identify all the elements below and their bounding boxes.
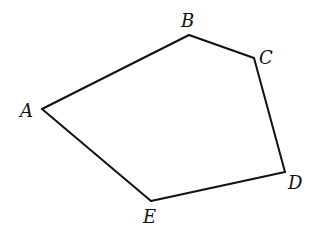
- edge-bc: [189, 35, 254, 58]
- edge-ea: [42, 109, 151, 201]
- edge-ab: [42, 35, 189, 109]
- pentagon-svg: A B C D E: [0, 0, 321, 244]
- edge-de: [151, 172, 285, 201]
- edge-cd: [254, 58, 285, 172]
- vertex-label-b: B: [180, 10, 194, 31]
- vertex-label-a: A: [18, 100, 33, 121]
- vertex-label-d: D: [287, 172, 303, 193]
- vertex-label-c: C: [259, 47, 273, 68]
- vertex-label-e: E: [142, 206, 156, 227]
- pentagon-diagram: A B C D E: [0, 0, 321, 244]
